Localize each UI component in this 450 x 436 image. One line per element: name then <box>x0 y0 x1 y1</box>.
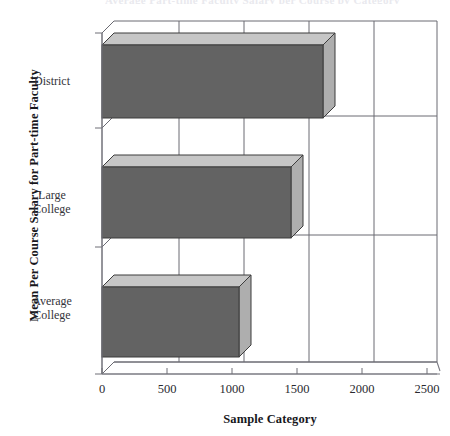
bar-district-top-face <box>102 33 335 45</box>
bar-district-front-face <box>102 45 323 118</box>
bar-average-college-front-face <box>102 287 239 357</box>
bar-district <box>102 33 335 118</box>
bar-average-college-top-face <box>102 275 251 287</box>
bar-average-college <box>102 275 251 357</box>
x-axis-right-corner <box>437 362 440 371</box>
bar-chart: Average Part-time Faculty Salary per Cou… <box>0 0 450 436</box>
bar-average-college-side-face <box>239 275 251 357</box>
bar-large-college-front-face <box>102 167 291 238</box>
side-wall-bottom-edge <box>102 362 114 374</box>
y-axis-ticks <box>95 33 102 374</box>
plot-area <box>0 0 450 436</box>
side-wall-top-edge <box>102 21 114 33</box>
bar-district-side-face <box>323 33 335 118</box>
bar-large-college-top-face <box>102 155 303 167</box>
x-axis-ticks <box>102 368 427 374</box>
bar-large-college-side-face <box>291 155 303 238</box>
floor <box>102 362 437 374</box>
bar-large-college <box>102 155 303 238</box>
